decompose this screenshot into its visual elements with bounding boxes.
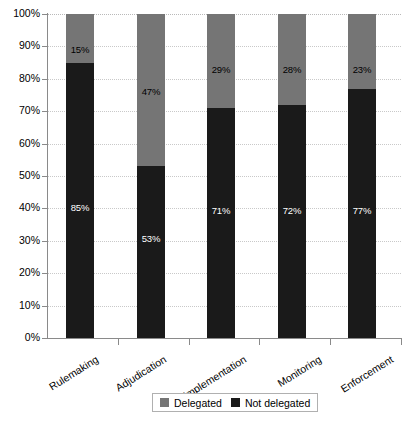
y-axis-tick-label: 30%: [2, 235, 40, 246]
y-axis-labels: 100%90%80%70%60%50%40%30%20%10%0%: [0, 0, 40, 423]
bar-segment-not-delegated: [137, 166, 165, 338]
bar-segment-delegated: [348, 14, 376, 89]
legend-swatch: [160, 398, 169, 407]
bar-value-label-delegated: 29%: [207, 64, 235, 75]
y-axis-tick-mark: [42, 306, 48, 307]
bar-value-label-delegated: 47%: [137, 86, 165, 97]
y-axis-tick-mark: [42, 46, 48, 47]
bar-segment-delegated: [207, 14, 235, 108]
bar-value-label-not-delegated: 53%: [137, 233, 165, 244]
bar-column: 77%23%: [348, 14, 376, 338]
y-axis-tick-label: 20%: [2, 267, 40, 278]
bar-column: 72%28%: [278, 14, 306, 338]
stacked-bar-chart: 100%90%80%70%60%50%40%30%20%10%0% 85%15%…: [0, 0, 409, 423]
x-axis-tick-mark: [259, 338, 260, 345]
bars-layer: 85%15%53%47%71%29%72%28%77%23%: [47, 14, 401, 338]
y-axis-tick-mark: [42, 208, 48, 209]
x-axis-tick-mark: [401, 338, 402, 345]
legend-item: Delegated: [160, 397, 222, 409]
y-axis-tick-mark: [42, 79, 48, 80]
bar-value-label-delegated: 23%: [348, 64, 376, 75]
y-axis-tick-label: 100%: [2, 8, 40, 19]
bar-value-label-not-delegated: 85%: [66, 202, 94, 213]
legend-label: Not delegated: [245, 397, 310, 409]
y-axis-tick-label: 80%: [2, 73, 40, 84]
y-axis-tick-label: 40%: [2, 202, 40, 213]
bar-value-label-delegated: 15%: [66, 44, 94, 55]
y-axis-tick-label: 90%: [2, 40, 40, 51]
bar-value-label-not-delegated: 77%: [348, 205, 376, 216]
bar-segment-delegated: [278, 14, 306, 105]
y-axis-tick-mark: [42, 241, 48, 242]
y-axis-tick-label: 0%: [2, 332, 40, 343]
y-axis-tick-label: 10%: [2, 300, 40, 311]
y-axis-tick-mark: [42, 144, 48, 145]
y-axis-tick-mark: [42, 176, 48, 177]
y-axis-tick-mark: [42, 14, 48, 15]
bar-segment-delegated: [66, 14, 94, 63]
legend-item: Not delegated: [231, 397, 310, 409]
y-axis-tick-label: 60%: [2, 138, 40, 149]
bar-segment-not-delegated: [278, 105, 306, 338]
legend-label: Delegated: [174, 397, 222, 409]
x-axis-tick-mark: [118, 338, 119, 345]
bar-value-label-not-delegated: 72%: [278, 205, 306, 216]
legend-swatch: [231, 398, 240, 407]
bar-column: 71%29%: [207, 14, 235, 338]
chart-legend: DelegatedNot delegated: [152, 393, 318, 412]
bar-value-label-not-delegated: 71%: [207, 205, 235, 216]
x-axis-tick-mark: [330, 338, 331, 345]
y-axis-tick-mark: [42, 273, 48, 274]
bar-column: 85%15%: [66, 14, 94, 338]
bar-segment-not-delegated: [207, 108, 235, 338]
y-axis-tick-label: 50%: [2, 170, 40, 181]
x-axis-tick-mark: [189, 338, 190, 345]
x-axis-line: [47, 338, 402, 339]
y-axis-tick-mark: [42, 338, 48, 339]
bar-column: 53%47%: [137, 14, 165, 338]
y-axis-tick-mark: [42, 111, 48, 112]
y-axis-tick-label: 70%: [2, 105, 40, 116]
bar-segment-not-delegated: [66, 63, 94, 338]
bar-value-label-delegated: 28%: [278, 64, 306, 75]
